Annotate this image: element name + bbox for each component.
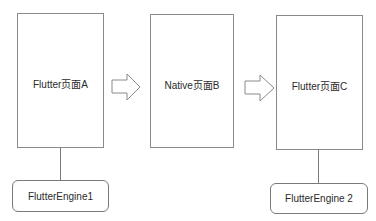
arrow-a-to-b-icon xyxy=(112,74,140,100)
arrow-b-to-c-icon xyxy=(245,75,274,101)
arrows-layer xyxy=(0,0,376,221)
